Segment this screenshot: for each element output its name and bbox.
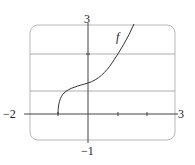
- plot-area: [0, 0, 195, 165]
- x-max-label: 3: [178, 108, 184, 120]
- y-min-label: −1: [81, 145, 94, 157]
- viewing-window-frame: [30, 25, 175, 140]
- function-graph: 3 −1 −2 3 f: [0, 0, 195, 165]
- x-min-label: −2: [3, 108, 16, 120]
- y-max-label: 3: [84, 13, 90, 25]
- curve-f: [58, 24, 134, 114]
- function-label: f: [116, 31, 119, 43]
